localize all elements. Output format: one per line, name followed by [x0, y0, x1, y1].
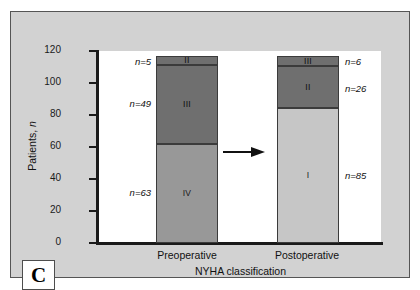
annotation-postoperative-n6-text: n=6: [345, 56, 361, 67]
annotation-preoperative-n49: n=49: [103, 99, 151, 109]
segment-label-postoperative-iii: III: [304, 57, 312, 66]
segment-label-preoperative-ii: II: [184, 56, 189, 65]
segment-label-preoperative-iii: III: [183, 100, 191, 109]
y-tick-mark-120: [89, 50, 97, 52]
panel-letter-badge: C: [22, 260, 55, 290]
x-tick-label-preoperative: Preoperative: [117, 249, 257, 261]
transition-arrow-icon: [223, 146, 265, 158]
annotation-postoperative-n6: n=6: [345, 57, 361, 67]
segment-preoperative-iii: III: [156, 65, 218, 144]
annotation-preoperative-n5: n=5: [103, 57, 151, 67]
segment-label-postoperative-i: I: [307, 171, 310, 180]
y-axis-title-italic-n: n: [26, 121, 38, 127]
segment-label-postoperative-ii: II: [305, 83, 310, 92]
annotation-preoperative-n63: n=63: [103, 188, 151, 198]
y-tick-mark-80: [89, 114, 97, 116]
annotation-preoperative-n63-text: n=63: [130, 187, 151, 198]
y-tick-label-120: 120: [21, 45, 61, 55]
chart-panel-background: 120 100 80 60 40 20 0 Patients, n II III: [10, 11, 410, 278]
segment-label-preoperative-iv: IV: [183, 189, 192, 198]
segment-postoperative-i: I: [277, 108, 339, 243]
y-tick-mark-60: [89, 146, 97, 148]
y-tick-mark-40: [89, 178, 97, 180]
y-tick-mark-20: [89, 210, 97, 212]
segment-preoperative-iv: IV: [156, 144, 218, 243]
segment-preoperative-ii: II: [156, 56, 218, 65]
x-tick-label-postoperative: Postoperative: [237, 249, 377, 261]
x-axis-line: [96, 242, 383, 245]
annotation-postoperative-n85-text: n=85: [345, 170, 366, 181]
y-tick-label-100: 100: [21, 77, 61, 87]
annotation-postoperative-n85: n=85: [345, 171, 366, 181]
x-axis-title: NYHA classification: [97, 265, 384, 277]
y-axis-title: Patients, n: [26, 101, 38, 191]
annotation-preoperative-n5-text: n=5: [135, 56, 151, 67]
y-axis-title-text: Patients,: [26, 127, 38, 171]
annotation-postoperative-n26-text: n=26: [345, 83, 366, 94]
y-tick-label-20: 20: [21, 205, 61, 215]
segment-postoperative-iii: III: [277, 56, 339, 66]
annotation-postoperative-n26: n=26: [345, 84, 366, 94]
y-tick-mark-100: [89, 82, 97, 84]
y-tick-label-0: 0: [21, 237, 61, 247]
y-tick-mark-0: [89, 242, 97, 244]
annotation-preoperative-n49-text: n=49: [130, 98, 151, 109]
segment-postoperative-ii: II: [277, 66, 339, 108]
